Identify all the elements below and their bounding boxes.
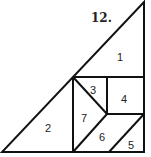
- tangram-diagram: 12. 1 2 3 4 5 6 7: [0, 0, 151, 157]
- piece-7-label: 7: [81, 112, 87, 124]
- piece-4-label: 4: [121, 93, 127, 105]
- piece-5-label: 5: [128, 139, 134, 151]
- piece-3-label: 3: [90, 84, 96, 96]
- piece-1-label: 1: [117, 51, 123, 63]
- piece-6-label: 6: [99, 131, 105, 143]
- divider: [109, 114, 144, 152]
- outline: [2, 2, 144, 152]
- piece-2-label: 2: [45, 122, 51, 134]
- figure-number: 12.: [91, 11, 112, 25]
